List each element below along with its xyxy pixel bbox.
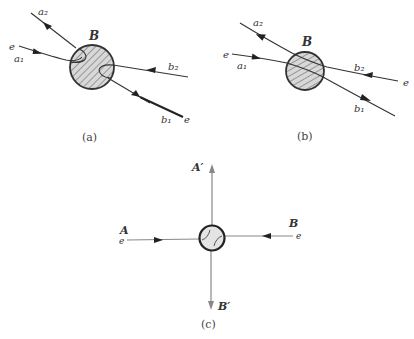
label-b1: b₁ (354, 103, 364, 114)
label-B-prime: B′ (217, 300, 230, 313)
panel-b: a₂ e a₁ B b₂ e b₁ (b) (223, 17, 409, 143)
label-e-in: e (223, 49, 229, 60)
label-e-out: e (403, 77, 409, 88)
arrow-down-icon (208, 301, 214, 310)
arrow-icon (131, 90, 140, 97)
label-e-right: e (296, 231, 301, 241)
caption-c: (c) (201, 318, 216, 331)
line-A (127, 239, 200, 240)
label-a1: a₁ (237, 60, 247, 71)
caption-a: (a) (82, 131, 97, 144)
arrow-right-icon (154, 237, 163, 243)
line-a2 (31, 13, 76, 48)
feynman-diagram-figure: a₂ e a₁ B b₂ b₁ e (a) a₂ e a₁ B b₂ e b₁ … (0, 0, 414, 339)
arrow-icon (146, 67, 156, 73)
label-blob-B: B (88, 29, 99, 43)
label-e-left: e (119, 236, 124, 246)
label-a1: a₁ (14, 53, 24, 64)
arrow-left-icon (262, 233, 271, 239)
arrow-icon (363, 72, 373, 78)
label-e-out: e (184, 114, 190, 125)
arrow-icon (33, 48, 43, 55)
arrow-up-icon (209, 164, 215, 173)
panel-c: A′ A e B e B′ (c) (119, 161, 301, 331)
arrow-icon (360, 94, 371, 101)
panel-a: a₂ e a₁ B b₂ b₁ e (a) (9, 6, 190, 144)
label-b2: b₂ (168, 61, 178, 72)
label-b1: b₁ (161, 114, 171, 125)
label-e-in: e (9, 41, 15, 52)
interaction-blob (70, 45, 114, 89)
interaction-blob (286, 52, 324, 90)
label-a2: a₂ (253, 17, 263, 28)
interaction-blob (200, 226, 225, 251)
label-a2: a₂ (38, 6, 48, 17)
caption-b: (b) (297, 130, 313, 143)
label-B: B (288, 217, 298, 230)
label-b2: b₂ (354, 62, 364, 73)
label-blob-B: B (301, 35, 312, 49)
arrow-icon (252, 53, 262, 60)
label-A-prime: A′ (191, 161, 204, 174)
